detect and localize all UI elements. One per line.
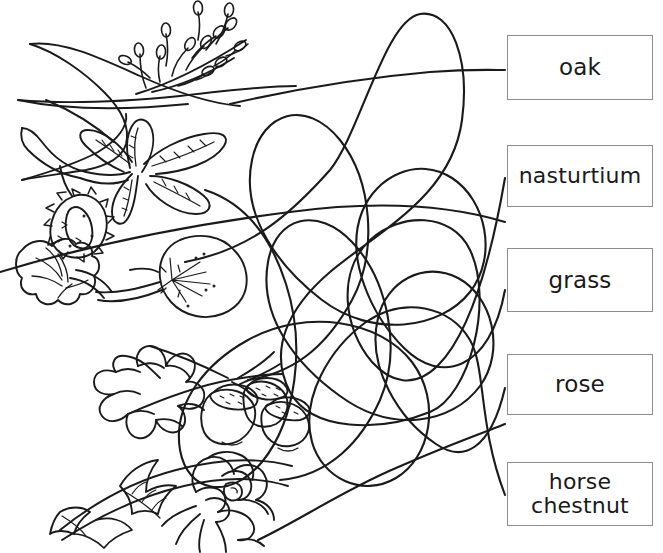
label-box-grass[interactable]: grass bbox=[507, 248, 653, 312]
label-text-grass: grass bbox=[548, 268, 611, 293]
label-text-horse-chestnut: horse chestnut bbox=[531, 470, 629, 518]
nasturtium-drawing bbox=[16, 236, 247, 317]
label-box-horse-chestnut[interactable]: horse chestnut bbox=[507, 462, 653, 526]
oak-drawing bbox=[94, 346, 310, 451]
label-box-oak[interactable]: oak bbox=[507, 35, 653, 100]
label-text-rose: rose bbox=[555, 372, 605, 397]
label-box-rose[interactable]: rose bbox=[507, 354, 653, 415]
connector-sweep-upper bbox=[0, 206, 505, 272]
rose-drawing bbox=[50, 452, 292, 552]
label-text-nasturtium: nasturtium bbox=[519, 164, 642, 188]
connector-sweep-lower bbox=[258, 424, 505, 540]
label-text-oak: oak bbox=[559, 55, 601, 80]
label-box-nasturtium[interactable]: nasturtium bbox=[507, 145, 653, 207]
matching-worksheet: oak nasturtium grass rose horse chestnut bbox=[0, 0, 663, 553]
